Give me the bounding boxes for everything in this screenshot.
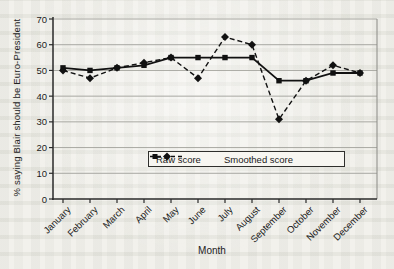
legend: Raw score Smoothed score <box>148 151 345 167</box>
chart-figure: % saying Blair should be Euro-President … <box>0 0 394 269</box>
data-point-marker-raw-November <box>329 61 337 69</box>
legend-label-smoothed-score: Smoothed score <box>224 154 293 165</box>
y-tick-label-50: 50 <box>20 65 47 76</box>
y-tick-label-20: 20 <box>20 142 47 153</box>
data-point-marker-raw-July <box>221 33 229 41</box>
y-tick-label-60: 60 <box>20 39 47 50</box>
data-point-marker-smoothed-August <box>249 55 254 60</box>
data-point-marker-smoothed-September <box>276 78 281 83</box>
data-point-marker-smoothed-October <box>303 78 308 83</box>
data-point-marker-smoothed-March <box>114 65 119 70</box>
y-tick-label-10: 10 <box>20 168 47 179</box>
smoothed-score-square-icon <box>149 152 161 161</box>
y-tick-label-40: 40 <box>20 91 47 102</box>
smoothed-series-line <box>63 58 360 81</box>
data-point-marker-raw-June <box>194 74 202 82</box>
data-point-marker-smoothed-December <box>357 70 362 75</box>
data-point-marker-smoothed-January <box>60 65 65 70</box>
x-axis-title: Month <box>162 245 262 256</box>
y-tick-label-30: 30 <box>20 116 47 127</box>
data-point-marker-raw-August <box>248 41 256 49</box>
data-point-marker-smoothed-May <box>168 55 173 60</box>
data-point-marker-smoothed-June <box>195 55 200 60</box>
legend-item-raw-score: Raw score <box>156 154 201 165</box>
y-tick-label-70: 70 <box>20 14 47 25</box>
y-tick-label-0: 0 <box>20 194 47 205</box>
data-point-marker-smoothed-April <box>141 63 146 68</box>
legend-item-smoothed-score: Smoothed score <box>224 154 293 165</box>
data-point-marker-smoothed-November <box>330 70 335 75</box>
data-point-marker-smoothed-July <box>222 55 227 60</box>
data-point-marker-raw-February <box>86 74 94 82</box>
data-point-marker-smoothed-February <box>87 68 92 73</box>
plot-svg <box>0 0 394 269</box>
